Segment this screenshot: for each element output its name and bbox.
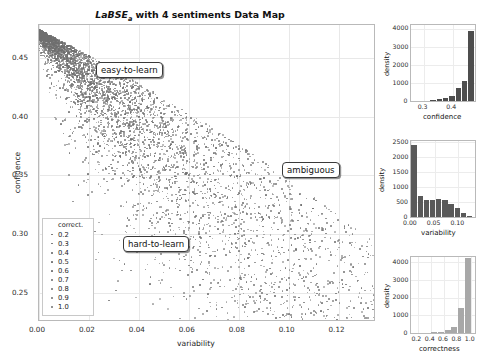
x-tick-label: 0.00: [29, 325, 45, 334]
hist-gridline-h: [411, 47, 475, 48]
annotation-ambiguous[interactable]: ambiguous: [282, 162, 340, 178]
hist-y-tick-label: 2500: [393, 138, 409, 145]
hist-gridline-h: [411, 29, 475, 30]
histogram-bar: [442, 200, 447, 217]
histogram-bar: [451, 327, 457, 333]
legend-row[interactable]: 0.6: [46, 266, 90, 275]
hist-y-tick-label: 0: [403, 97, 407, 104]
hist-y-tick-label: 500: [396, 198, 408, 205]
scatter-x-axis-label: variability: [177, 339, 215, 348]
hist-y-tick-label: 3000: [393, 276, 409, 283]
confidence-histogram-bars: [411, 25, 475, 101]
legend-dot-icon: [51, 243, 53, 245]
variability-histogram-y-label: density: [378, 160, 386, 200]
variability-histogram-bars: [411, 141, 475, 217]
variability-histogram-x-label: variability: [421, 229, 456, 237]
histogram-bar: [458, 308, 464, 333]
legend-dot-icon: [51, 279, 53, 281]
histogram-bar: [424, 200, 429, 217]
histogram-bar: [431, 332, 437, 333]
legend-entries: 0.20.30.40.50.60.70.80.91.0: [46, 230, 90, 312]
hist-x-tick-label: 1.0: [465, 335, 475, 342]
histogram-bar: [438, 332, 444, 333]
legend-marker: [46, 288, 58, 290]
hist-gridline-h: [411, 187, 475, 188]
hist-y-tick-label: 2000: [393, 293, 409, 300]
legend-row[interactable]: 0.9: [46, 294, 90, 303]
hist-gridline-h: [411, 142, 475, 143]
histogram-bar: [448, 204, 453, 217]
x-tick-label: 0.06: [179, 325, 195, 334]
hist-y-tick-label: 1000: [393, 183, 409, 190]
legend-row[interactable]: 0.8: [46, 285, 90, 294]
legend-dot-icon: [51, 288, 53, 290]
hist-x-tick-label: 0.05: [427, 219, 441, 226]
legend-marker: [46, 270, 58, 272]
confidence-histogram-panel: [410, 24, 476, 102]
figure-canvas: LaBSEa with 4 sentiments Data Map 0.450.…: [0, 0, 487, 357]
legend-dot-icon: [51, 252, 53, 254]
hist-y-tick-label: 0: [403, 329, 407, 336]
histogram-bar: [455, 208, 460, 217]
hist-x-tick-label: 0.8: [451, 335, 461, 342]
y-tick-label: 0.25: [12, 288, 28, 297]
histogram-bar: [462, 81, 468, 101]
legend-row[interactable]: 0.2: [46, 230, 90, 239]
histogram-bar: [468, 31, 474, 101]
hist-gridline-v: [418, 257, 419, 333]
correctness-histogram-x-label: correctness: [419, 345, 460, 353]
hist-gridline-h: [411, 157, 475, 158]
histogram-bar: [456, 88, 462, 101]
scatter-y-axis-label: confidence: [13, 143, 22, 203]
hist-x-tick-label: 0.3: [418, 103, 428, 110]
legend-row[interactable]: 1.0: [46, 303, 90, 312]
hist-y-tick-label: 2000: [393, 61, 409, 68]
legend-row[interactable]: 0.5: [46, 257, 90, 266]
x-tick-label: 0.02: [79, 325, 95, 334]
correctness-histogram-bars: [411, 257, 475, 333]
legend-marker: [46, 279, 58, 281]
legend-label: 0.5: [58, 258, 69, 266]
hist-y-tick-label: 1000: [393, 311, 409, 318]
histogram-bar: [465, 258, 471, 333]
legend-label: 0.7: [58, 276, 69, 284]
hist-gridline-v: [431, 257, 432, 333]
histogram-bar: [430, 200, 435, 217]
hist-x-tick-label: 0.6: [438, 335, 448, 342]
hist-gridline-v: [444, 257, 445, 333]
legend-label: 0.8: [58, 285, 69, 293]
hist-x-tick-label: 0.00: [403, 219, 417, 226]
legend-label: 1.0: [58, 303, 69, 311]
legend-marker: [46, 243, 58, 245]
histogram-bar: [461, 213, 466, 217]
histogram-bar: [418, 196, 423, 217]
legend-marker: [46, 306, 58, 308]
legend-label: 0.6: [58, 267, 69, 275]
legend-label: 0.2: [58, 231, 69, 239]
hist-gridline-v: [458, 141, 459, 217]
legend-marker: [46, 252, 58, 254]
hist-y-tick-label: 1500: [393, 168, 409, 175]
legend-row[interactable]: 0.4: [46, 248, 90, 257]
correctness-histogram-panel: [410, 256, 476, 334]
x-tick-label: 0.10: [279, 325, 295, 334]
variability-histogram-panel: [410, 140, 476, 218]
hist-gridline-h: [411, 217, 475, 218]
hist-y-tick-label: 2000: [393, 153, 409, 160]
histogram-bar: [437, 99, 443, 101]
legend-row[interactable]: 0.7: [46, 275, 90, 284]
correctness-legend[interactable]: correct. 0.20.30.40.50.60.70.80.91.0: [42, 218, 94, 316]
histogram-bar: [445, 330, 451, 333]
histogram-bar: [424, 101, 430, 102]
hist-gridline-h: [411, 333, 475, 334]
annotation-easy-to-learn[interactable]: easy-to-learn: [96, 62, 163, 78]
legend-row[interactable]: 0.3: [46, 239, 90, 248]
hist-x-tick-label: 0.2: [411, 335, 421, 342]
histogram-bar: [443, 98, 449, 101]
annotation-hard-to-learn[interactable]: hard-to-learn: [123, 236, 189, 252]
hist-y-tick-label: 4000: [393, 24, 409, 31]
correctness-histogram-y-label: density: [383, 276, 391, 316]
legend-marker: [46, 297, 58, 299]
legend-dot-icon: [51, 270, 53, 272]
histogram-bar: [449, 96, 455, 101]
